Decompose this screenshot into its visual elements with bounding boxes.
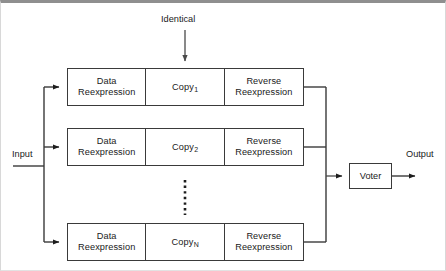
reverse-reexpression-cell: Reverse Reexpression [225, 129, 303, 165]
voter-box: Voter [349, 163, 392, 189]
output-label: Output [406, 149, 434, 160]
diagram-canvas: Identical Input Output Data Reexpression… [0, 0, 446, 271]
copy-cell: Copy2 [146, 129, 224, 165]
data-reexpression-cell: Data Reexpression [68, 69, 146, 105]
copy-index: 2 [194, 144, 198, 155]
pipeline-row: Data Reexpression Copy1 Reverse Reexpres… [67, 68, 304, 106]
copy-cell: CopyN [146, 224, 224, 260]
copy-label: Copy [172, 142, 194, 153]
reverse-reexpression-cell: Reverse Reexpression [225, 69, 303, 105]
copy-label: Copy [172, 82, 194, 93]
data-reexpression-cell: Data Reexpression [68, 129, 146, 165]
copy-cell: Copy1 [146, 69, 224, 105]
copy-label: Copy [172, 237, 194, 248]
copy-index: 1 [194, 84, 198, 95]
output-collection-bus [304, 87, 342, 242]
data-reexpression-cell: Data Reexpression [68, 224, 146, 260]
input-label: Input [12, 149, 32, 160]
input-distribution-bus [44, 87, 59, 242]
pipeline-row: Data Reexpression CopyN Reverse Reexpres… [67, 223, 304, 261]
copy-index: N [194, 239, 199, 250]
identical-label: Identical [161, 14, 195, 25]
pipeline-row: Data Reexpression Copy2 Reverse Reexpres… [67, 128, 304, 166]
reverse-reexpression-cell: Reverse Reexpression [225, 224, 303, 260]
